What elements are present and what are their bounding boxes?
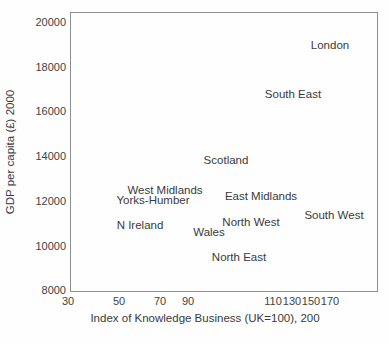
x-tick-label: 50 <box>113 296 125 307</box>
plot-area <box>70 12 378 292</box>
y-tick-label: 20000 <box>24 17 66 28</box>
data-point-label: North East <box>212 251 266 263</box>
y-tick-label: 12000 <box>24 196 66 207</box>
x-tick-label: 150 <box>302 296 320 307</box>
data-point-label: N Ireland <box>117 219 164 231</box>
y-tick-label: 18000 <box>24 62 66 73</box>
y-tick-label: 14000 <box>24 151 66 162</box>
data-point-label: South East <box>265 88 321 100</box>
data-point-label: Wales <box>193 226 225 238</box>
data-point-label: North West <box>222 216 279 228</box>
data-point-label: Scotland <box>204 154 249 166</box>
x-tick-label: 30 <box>62 296 74 307</box>
x-axis-title: Index of Knowledge Business (UK=100), 20… <box>55 312 355 325</box>
y-tick-label: 10000 <box>24 241 66 252</box>
y-axis-title: GDP per capita (£) 2000 <box>4 90 17 214</box>
y-tick-label: 8000 <box>24 285 66 296</box>
data-point-label: Yorks-Humber <box>116 194 189 206</box>
x-tick-label: 170 <box>321 296 339 307</box>
scatter-chart-figure: GDP per capita (£) 2000 2000018000160001… <box>0 0 389 344</box>
x-tick-label: 70 <box>154 296 166 307</box>
x-tick-label: 90 <box>182 296 194 307</box>
data-point-label: South West <box>304 209 363 221</box>
y-tick-label: 16000 <box>24 106 66 117</box>
x-tick-label: 130 <box>283 296 301 307</box>
data-point-label: London <box>311 39 349 51</box>
data-point-label: East Midlands <box>225 190 297 202</box>
x-tick-label: 110 <box>264 296 282 307</box>
